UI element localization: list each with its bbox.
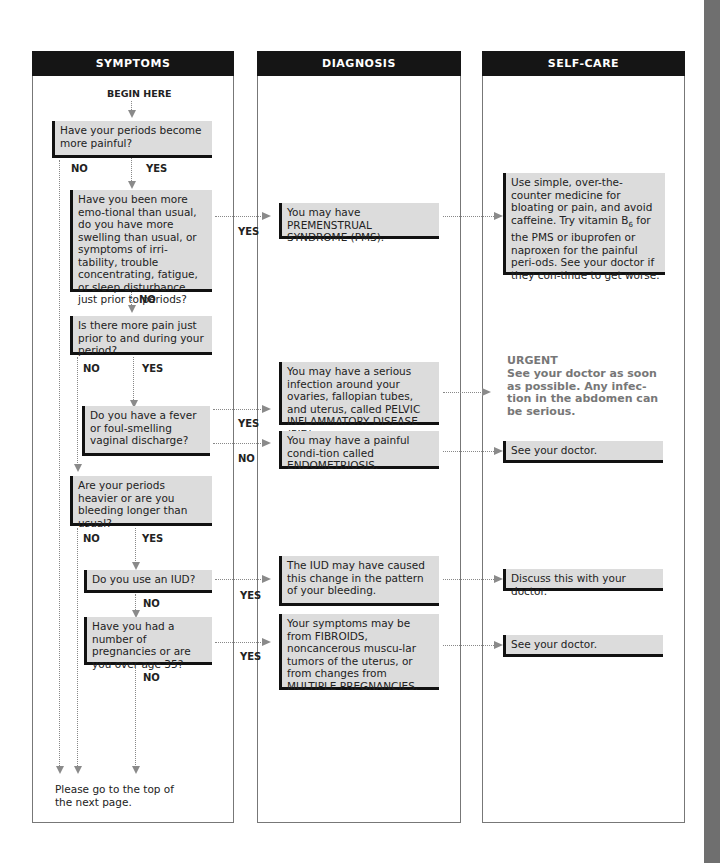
connector xyxy=(77,357,78,467)
arrow-right-icon xyxy=(262,212,271,220)
question-box-q7[interactable]: Have you had a number of pregnancies or … xyxy=(84,617,212,665)
selfcare-box-endometriosis[interactable]: See your doctor. xyxy=(503,441,663,463)
arrow-right-icon xyxy=(262,439,271,447)
arrow-right-icon xyxy=(262,575,271,583)
yes-label: YES xyxy=(142,363,163,374)
no-label: NO xyxy=(83,533,100,544)
diagnosis-box-iud[interactable]: The IUD may have caused this change in t… xyxy=(279,556,439,606)
connector xyxy=(443,216,498,217)
no-label: NO xyxy=(71,163,88,174)
diagnosis-header: DIAGNOSIS xyxy=(257,51,461,76)
symptoms-header: SYMPTOMS xyxy=(32,51,234,76)
connector xyxy=(135,528,136,565)
arrow-down-icon xyxy=(132,766,140,774)
connector xyxy=(213,409,263,410)
selfcare-column: SELF-CARE xyxy=(482,51,685,823)
arrow-right-icon xyxy=(494,212,503,220)
connector xyxy=(215,579,263,580)
arrow-down-icon xyxy=(132,562,140,570)
no-label: NO xyxy=(143,672,160,683)
selfcare-box-pms[interactable]: Use simple, over-the-counter medicine fo… xyxy=(503,173,665,275)
arrow-down-icon xyxy=(128,110,136,118)
yes-label: YES xyxy=(240,651,261,662)
page-edge-strip xyxy=(704,0,720,863)
arrow-right-icon xyxy=(482,388,491,396)
connector xyxy=(443,392,483,393)
connector xyxy=(443,579,498,580)
selfcare-header: SELF-CARE xyxy=(482,51,685,76)
question-box-q4[interactable]: Do you have a fever or foul-smelling vag… xyxy=(82,406,210,456)
selfcare-box-fibroids[interactable]: See your doctor. xyxy=(503,635,663,657)
yes-label: YES xyxy=(240,590,261,601)
question-box-q5[interactable]: Are your periods heavier or are you blee… xyxy=(70,476,212,526)
no-label: NO xyxy=(238,453,255,464)
urgent-message: See your doctor as soon as possible. Any… xyxy=(507,368,667,418)
no-label: NO xyxy=(139,294,156,305)
question-box-q6[interactable]: Do you use an IUD? xyxy=(84,570,212,593)
yes-label: YES xyxy=(146,163,167,174)
question-box-q2[interactable]: Have you been more emo-tional than usual… xyxy=(70,190,212,292)
connector xyxy=(59,160,60,768)
yes-label: YES xyxy=(142,533,163,544)
connector xyxy=(215,642,263,643)
yes-label: YES xyxy=(238,226,259,237)
arrow-right-icon xyxy=(494,575,503,583)
question-box-q1[interactable]: Have your periods become more painful? xyxy=(52,121,212,158)
connector xyxy=(133,357,134,404)
diagnosis-box-pid[interactable]: You may have a serious infection around … xyxy=(279,362,439,425)
urgent-title: URGENT xyxy=(507,355,667,368)
no-label: NO xyxy=(143,598,160,609)
diagnosis-box-endometriosis[interactable]: You may have a painful condi-tion called… xyxy=(279,431,439,469)
selfcare-box-iud[interactable]: Discuss this with your doctor. xyxy=(503,569,663,591)
no-label: NO xyxy=(83,363,100,374)
next-page-note: Please go to the top of the next page. xyxy=(55,783,175,809)
connector xyxy=(443,451,498,452)
connector xyxy=(215,216,263,217)
arrow-down-icon xyxy=(74,464,82,472)
arrow-down-icon xyxy=(74,766,82,774)
yes-label: YES xyxy=(238,418,259,429)
begin-here-label: BEGIN HERE xyxy=(107,88,172,99)
arrow-right-icon xyxy=(494,447,503,455)
arrow-right-icon xyxy=(262,638,271,646)
connector xyxy=(213,443,263,444)
arrow-right-icon xyxy=(262,405,271,413)
arrow-down-icon xyxy=(128,181,136,189)
diagnosis-box-fibroids[interactable]: Your symptoms may be from FIBROIDS, nonc… xyxy=(279,614,439,690)
connector xyxy=(77,528,78,768)
connector xyxy=(131,101,132,110)
connector xyxy=(443,645,498,646)
connector xyxy=(131,158,132,183)
selfcare-pms-text-a: Use simple, over-the-counter medicine fo… xyxy=(511,176,652,226)
arrow-down-icon xyxy=(128,305,136,313)
arrow-down-icon xyxy=(56,766,64,774)
diagnosis-box-pms[interactable]: You may have PREMENSTRUAL SYNDROME (PMS)… xyxy=(279,203,439,239)
arrow-right-icon xyxy=(494,641,503,649)
question-box-q3[interactable]: Is there more pain just prior to and dur… xyxy=(70,316,212,355)
connector xyxy=(135,668,136,767)
